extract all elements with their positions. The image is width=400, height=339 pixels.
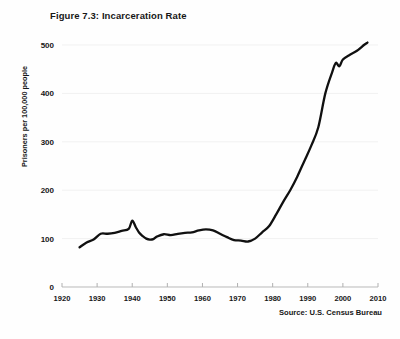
x-tick-label: 2000 bbox=[334, 294, 351, 303]
y-tick-label: 500 bbox=[41, 41, 55, 50]
x-tick-label: 1940 bbox=[124, 294, 141, 303]
y-tick-label: 300 bbox=[41, 138, 55, 147]
y-tick-label: 400 bbox=[41, 89, 55, 98]
y-axis-ticks-group: 0100200300400500 bbox=[41, 41, 55, 292]
y-tick-label: 200 bbox=[41, 186, 55, 195]
source-note: Source: U.S. Census Bureau bbox=[279, 308, 382, 317]
x-tick-label: 1930 bbox=[89, 294, 106, 303]
x-tick-label: 1970 bbox=[229, 294, 246, 303]
x-tick-label: 1950 bbox=[159, 294, 176, 303]
y-tick-label: 100 bbox=[41, 235, 55, 244]
y-tick-label: 0 bbox=[50, 283, 55, 292]
figure-container: Figure 7.3: Incarceration Rate Prisoners… bbox=[0, 0, 400, 339]
x-tick-label: 1920 bbox=[54, 294, 71, 303]
x-tick-label: 1960 bbox=[194, 294, 211, 303]
data-series-line bbox=[80, 43, 368, 248]
x-tick-label: 1980 bbox=[264, 294, 281, 303]
x-tick-label: 1990 bbox=[299, 294, 316, 303]
line-chart: 0100200300400500 19201930194019501960197… bbox=[0, 0, 400, 339]
x-tick-label: 2010 bbox=[370, 294, 387, 303]
x-axis-ticks-group: 1920193019401950196019701980199020002010 bbox=[54, 283, 387, 303]
